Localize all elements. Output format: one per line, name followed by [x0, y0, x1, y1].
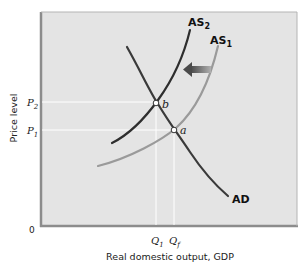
aggregate-supply-demand-diagram: b a AS2 AS1 AD P2 P1 Q1 Qf 0 Real domest… [0, 0, 308, 267]
point-a-label: a [180, 124, 187, 137]
p1-tick-label: P1 [26, 125, 38, 139]
q1-tick-label: Q1 [151, 235, 164, 249]
point-b-label: b [162, 98, 169, 111]
origin-label: 0 [29, 225, 35, 235]
point-a-marker [171, 127, 177, 133]
point-b-marker [153, 100, 159, 106]
x-axis-title: Real domestic output, GDP [106, 251, 234, 262]
y-axis-title: Price level [8, 94, 19, 143]
plot-panel [41, 12, 297, 226]
p2-tick-label: P2 [26, 97, 39, 111]
qf-tick-label: Qf [169, 235, 181, 249]
ad-label: AD [232, 193, 250, 206]
